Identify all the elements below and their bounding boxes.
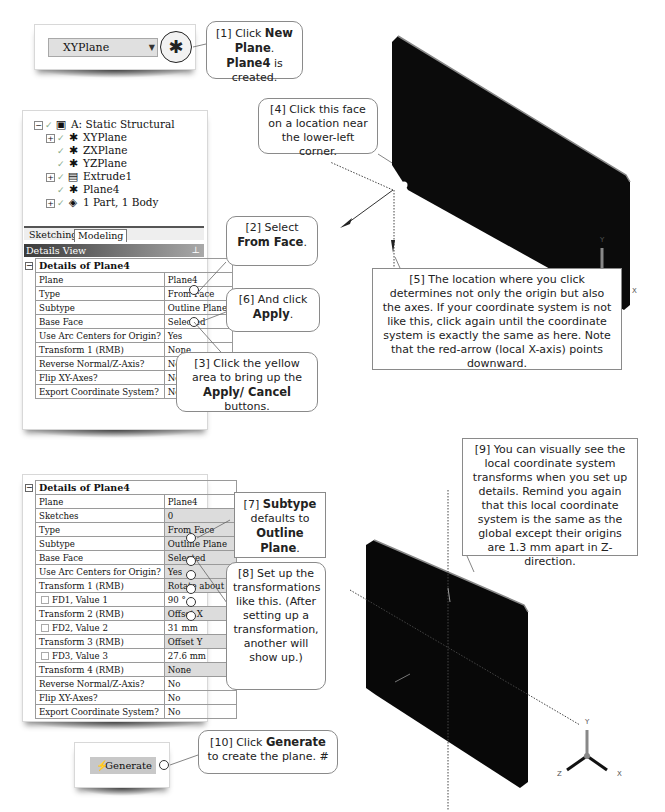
callout-6: [6] And click Apply. — [226, 288, 320, 332]
axis-label-x: X — [617, 770, 622, 778]
callout-7: [7] Subtype defaults to Outline Plane. — [234, 492, 326, 558]
pick-point-marker — [401, 182, 408, 189]
callout-3: [3] Click the yellow area to bring up th… — [176, 352, 318, 412]
callout-5: [5] The location where you click determi… — [372, 268, 622, 370]
axis-label-x: X — [632, 287, 637, 295]
callout-1: [1] Click New Plane. Plane4 is created. — [206, 21, 303, 79]
axis-label-y: Y — [600, 236, 604, 244]
triad-2 — [567, 730, 607, 770]
callout-10: [10] Click Generate to create the plane.… — [198, 730, 338, 774]
axis-label-z: Z — [557, 770, 562, 778]
callout-4: [4] Click this face on a location near t… — [258, 98, 378, 154]
callout-8: [8] Set up the transformations like this… — [226, 562, 326, 690]
callout-2: [2] Select From Face. — [226, 216, 318, 266]
callout-9: [9] You can visually see the local coord… — [462, 438, 638, 556]
axis-label-y: Y — [585, 718, 589, 726]
